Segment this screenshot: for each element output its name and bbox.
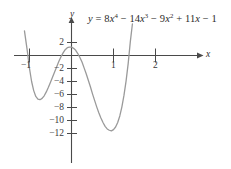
x-tick-label-1: 1 — [111, 61, 116, 71]
y-tick-label--10: −10 — [38, 116, 64, 126]
equation-label: y = 8x4 − 14x3 − 9x2 + 11x − 1 — [88, 13, 217, 24]
y-tick-label--12: −12 — [38, 129, 64, 139]
x-axis-arrowhead — [197, 53, 204, 59]
equation-op2: − — [151, 13, 157, 24]
equation-term4-coef: 11 — [185, 13, 195, 24]
equation-op4: − — [203, 13, 209, 24]
equation-lhs: y — [88, 13, 93, 24]
y-tick-label--6: −6 — [41, 90, 64, 100]
equation-equals: = — [96, 13, 102, 24]
y-tick-label--4: −4 — [41, 77, 64, 87]
x-tick-label-2: 2 — [153, 61, 158, 71]
y-tick-label--2: −2 — [41, 64, 64, 74]
equation-op1: − — [121, 13, 127, 24]
y-tick-label-2: 2 — [44, 38, 64, 48]
plot-canvas — [0, 0, 231, 169]
x-tick-label--1: −1 — [21, 61, 31, 71]
equation-term3-exp: 2 — [170, 12, 174, 19]
function-graph-figure: y = 8x4 − 14x3 − 9x2 + 11x − 1 y x −1 1 … — [0, 0, 231, 169]
equation-term2-coef: 14 — [129, 13, 140, 24]
equation-term1-exp: 4 — [114, 12, 118, 19]
x-axis-label: x — [206, 50, 210, 60]
y-tick-label--8: −8 — [41, 103, 64, 113]
equation-op3: + — [176, 13, 182, 24]
y-axis — [69, 17, 75, 163]
equation-constant: 1 — [212, 13, 217, 24]
equation-term4-var: x — [195, 13, 200, 24]
x-axis — [14, 53, 204, 59]
y-axis-label: y — [70, 10, 74, 20]
equation-term2-exp: 3 — [145, 12, 149, 19]
